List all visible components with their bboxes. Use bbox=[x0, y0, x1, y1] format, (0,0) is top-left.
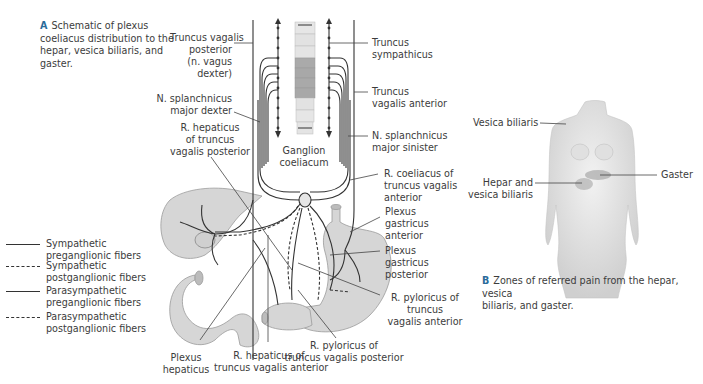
label-r-hepaticus-anterior: R. hepaticus of truncus vagalis anterior bbox=[214, 350, 324, 374]
caption-letter-b: B bbox=[482, 275, 489, 286]
duodenum-shape bbox=[170, 271, 259, 347]
label-truncus-sympathicus: Truncus sympathicus bbox=[372, 37, 433, 61]
hepar-zone bbox=[575, 178, 593, 190]
label-hepar-vesica-biliaris: Hepar and vesica biliaris bbox=[455, 177, 533, 201]
vertebral-column bbox=[295, 22, 315, 134]
label-plexus-hepaticus: Plexus hepaticus bbox=[160, 352, 212, 376]
legend-item-parasympathetic-pre: Parasympathetic preganglionic fibers bbox=[0, 285, 141, 309]
figure-b-caption: BZones of referred pain from the hepar, … bbox=[482, 275, 692, 313]
label-vesica-biliaris: Vesica biliaris bbox=[473, 117, 538, 129]
solid-line-icon bbox=[6, 291, 40, 292]
legend-item-sympathetic-pre: Sympathetic preganglionic fibers bbox=[0, 238, 141, 262]
female-torso bbox=[546, 101, 639, 299]
label-truncus-vagalis-anterior: Truncus vagalis anterior bbox=[372, 86, 447, 110]
label-r-pyloricus-anterior: R. pyloricus of truncus vagalis anterior bbox=[380, 292, 470, 328]
label-r-coeliacus-anterior: R. coeliacus of truncus vagalis anterior bbox=[384, 168, 457, 204]
label-truncus-vagalis-posterior: Truncus vagalis posterior (n. vagus dext… bbox=[170, 32, 232, 80]
label-plexus-gastricus-anterior: Plexus gastricus anterior bbox=[385, 206, 429, 242]
label-ganglion-coeliacum: Ganglion coeliacum bbox=[272, 145, 336, 169]
legend-item-parasympathetic-post: Parasympathetic postganglionic fibers bbox=[0, 311, 146, 335]
solid-line-icon bbox=[6, 244, 40, 245]
label-n-splanchnicus-major-dexter: N. splanchnicus major dexter bbox=[150, 93, 232, 117]
legend-item-sympathetic-post: Sympathetic postganglionic fibers bbox=[0, 260, 146, 284]
gaster-zone bbox=[585, 170, 611, 180]
dashed-line-icon bbox=[6, 317, 40, 318]
label-r-hepaticus-posterior: R. hepaticus of truncus vagalis posterio… bbox=[160, 122, 260, 158]
label-n-splanchnicus-major-sinister: N. splanchnicus major sinister bbox=[372, 130, 447, 154]
stomach-shape bbox=[262, 205, 391, 332]
dashed-line-icon bbox=[6, 266, 40, 267]
label-gaster: Gaster bbox=[661, 169, 693, 181]
liver-shape bbox=[161, 188, 262, 258]
label-plexus-gastricus-posterior: Plexus gastricus posterior bbox=[385, 245, 429, 281]
